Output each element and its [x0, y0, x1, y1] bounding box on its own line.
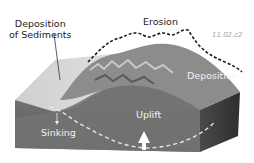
deposition-sediments-label: Deposition of Sediments: [9, 18, 72, 40]
geology-diagram: Deposition of Sediments Erosion 11.02.c2…: [0, 0, 254, 163]
erosion-label: Erosion: [143, 16, 178, 27]
deposition-label-line1: Deposition: [9, 18, 72, 29]
figure-id: 11.02.c2: [212, 31, 243, 39]
sinking-label: Sinking: [41, 127, 76, 138]
deposition-label-line2: of Sediments: [9, 29, 72, 40]
deposition-label: Deposition: [187, 70, 238, 81]
uplift-label: Uplift: [136, 109, 161, 120]
